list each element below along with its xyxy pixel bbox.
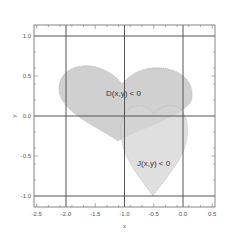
y-tick-label: -1.0 [21, 193, 32, 199]
region-j-label: J(x,y) < 0 [137, 159, 171, 168]
y-tick-label: 0.0 [23, 113, 32, 119]
x-tick-label: -1.0 [119, 211, 130, 217]
x-axis-label: x [123, 223, 126, 229]
x-tick-label: -2.0 [61, 211, 72, 217]
y-tick-label: 1.0 [23, 33, 32, 39]
region-d-label: D(x,y) < 0 [106, 89, 141, 98]
grid-lines [34, 25, 215, 207]
y-tick-label: -0.5 [21, 153, 32, 159]
x-tick-label: -1.5 [90, 211, 101, 217]
x-tick-label: 0.5 [208, 211, 217, 217]
y-axis-label: y [11, 115, 17, 118]
region-j-heart [121, 106, 188, 196]
x-tick-label: 0.0 [179, 211, 188, 217]
y-tick-label: 0.5 [23, 73, 32, 79]
x-tick-label: -0.5 [149, 211, 160, 217]
x-tick-label: -2.5 [32, 211, 43, 217]
plot: -2.5 -2.0 -1.5 -1.0 -0.5 0.0 0.5 1.0 0.5… [0, 0, 230, 239]
